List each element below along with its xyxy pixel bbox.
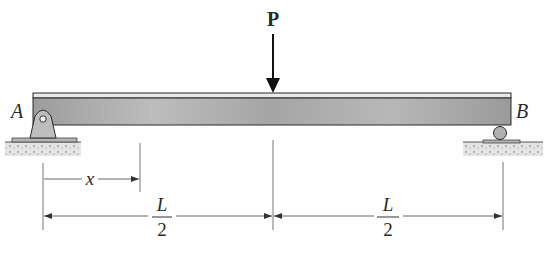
ground-right — [463, 142, 543, 156]
half-span-left-numerator: L — [156, 194, 168, 215]
beam-diagram: P A B x L 2 L 2 — [0, 0, 551, 272]
roller-support-b — [483, 127, 520, 144]
beam — [33, 93, 511, 125]
pin-icon — [40, 116, 46, 122]
half-span-right-denominator: 2 — [383, 219, 393, 240]
support-a-label: A — [9, 100, 24, 122]
dimension-half-span-right — [274, 216, 502, 217]
ground-left — [5, 142, 81, 156]
dimension-half-span-left — [44, 216, 272, 217]
load-arrow-p — [266, 34, 280, 93]
load-label: P — [267, 8, 279, 30]
roller-icon — [494, 127, 507, 140]
x-label: x — [85, 168, 95, 189]
support-b-label: B — [516, 100, 528, 122]
half-span-left-denominator: 2 — [157, 219, 167, 240]
half-span-right-numerator: L — [382, 194, 394, 215]
